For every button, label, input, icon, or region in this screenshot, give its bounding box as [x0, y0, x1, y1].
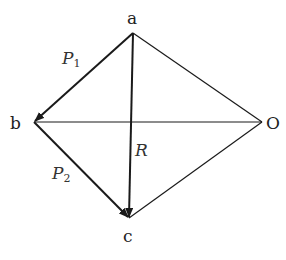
vector-label-P2: P2	[51, 163, 70, 185]
vector-P2-arrow	[34, 122, 128, 217]
force-polygon-diagram: a b c O P1 P2 R	[0, 0, 286, 260]
vector-label-P2-main: P	[51, 163, 64, 183]
point-label-b: b	[10, 113, 21, 133]
segment-c-O	[129, 122, 262, 218]
vector-label-R: R	[134, 140, 148, 160]
point-label-O: O	[266, 113, 280, 133]
vector-R-arrow	[129, 33, 133, 217]
vector-P1-arrow	[35, 33, 133, 121]
point-label-a: a	[127, 8, 137, 28]
vector-label-P1-subscript: 1	[73, 57, 80, 70]
segment-a-O	[133, 33, 262, 122]
vector-label-P1-main: P	[61, 48, 74, 68]
vector-label-P2-subscript: 2	[63, 172, 70, 185]
point-label-c: c	[123, 226, 133, 246]
vector-label-P1: P1	[61, 48, 80, 70]
